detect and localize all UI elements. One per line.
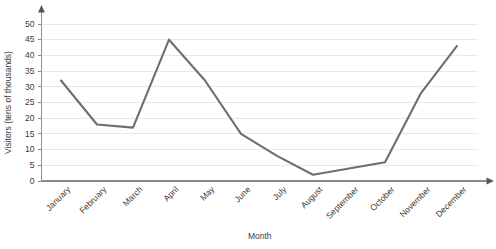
line-chart: 05101520253035404550 JanuaryFebruaryMarc…: [0, 0, 496, 249]
y-tick-label: 10: [25, 144, 35, 154]
y-axis-arrow-icon: [38, 5, 45, 13]
x-axis-arrow-icon: [487, 178, 495, 185]
y-tick-label: 45: [25, 34, 35, 44]
x-tick-label-august: August: [299, 184, 325, 210]
y-tick-label: 40: [25, 50, 35, 60]
y-tick-label: 35: [25, 66, 35, 76]
gridlines-group: [42, 24, 479, 165]
axes-group: [38, 5, 494, 184]
y-tick-label: 0: [30, 176, 35, 186]
x-axis-title: Month: [248, 231, 272, 241]
x-tick-label-november: November: [398, 184, 433, 219]
y-tick-label: 50: [25, 19, 35, 29]
visitors-line-series: [61, 40, 457, 175]
x-tick-label-december: December: [434, 184, 469, 219]
y-tick-label: 30: [25, 82, 35, 92]
x-tick-label-february: February: [77, 184, 109, 216]
y-axis-title: Visitors (tens of thousands): [3, 51, 13, 154]
x-tick-label-april: April: [161, 184, 180, 203]
y-tick-label: 15: [25, 129, 35, 139]
x-tick-label-june: June: [232, 184, 252, 204]
x-tick-label-october: October: [368, 184, 397, 213]
chart-canvas: 05101520253035404550 JanuaryFebruaryMarc…: [0, 0, 496, 249]
x-tick-label-september: September: [324, 184, 361, 221]
y-tick-label: 5: [30, 160, 35, 170]
x-tick-group: JanuaryFebruaryMarchAprilMayJuneJulyAugu…: [44, 184, 469, 221]
x-tick-label-january: January: [44, 184, 73, 213]
x-tick-label-july: July: [271, 184, 289, 202]
y-tick-label: 25: [25, 97, 35, 107]
y-tick-label: 20: [25, 113, 35, 123]
y-tick-group: 05101520253035404550: [25, 19, 41, 186]
x-tick-label-may: May: [198, 184, 217, 203]
x-tick-label-march: March: [121, 184, 145, 208]
